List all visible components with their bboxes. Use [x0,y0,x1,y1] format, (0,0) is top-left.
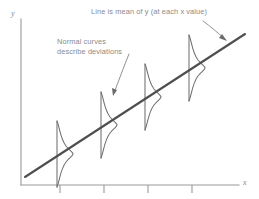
leader-arrowhead-curve [112,88,117,96]
x-axis-ticks [60,185,192,193]
annotation-normal-curves-line2: describe deviations [57,47,122,56]
leader-line-curve-path [114,54,129,93]
annotation-normal-curves-line1: Normal curves [57,37,106,46]
leader-line-curve-annotation [112,54,129,96]
annotation-normal-curves: Normal curvesdescribe deviations [57,37,122,56]
regression-normal-curves-figure: Line is mean of y (at each x value) Norm… [0,0,259,199]
y-axis-label: y [11,9,15,18]
figure-canvas [0,0,259,199]
leader-line-mean-annotation [203,21,227,41]
annotation-line-is-mean: Line is mean of y (at each x value) [91,7,207,17]
x-axis-label: x [243,178,247,187]
